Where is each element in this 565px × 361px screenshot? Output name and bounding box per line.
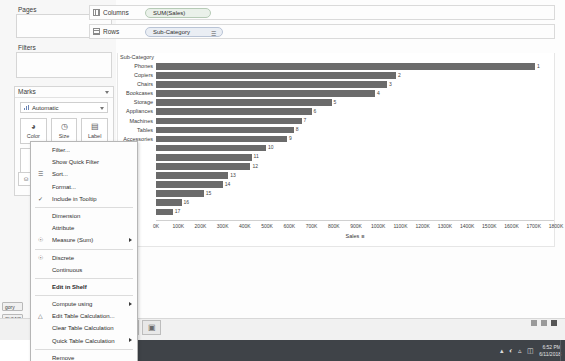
bar-value-label: 12 [250,163,258,169]
bar[interactable] [156,181,223,188]
chevron-down-icon[interactable] [105,91,109,94]
menu-item-clear-table-calculation[interactable]: Clear Table Calculation [31,322,137,334]
bar[interactable] [156,145,266,152]
marks-label: Marks [18,88,36,95]
menu-item-measure-sum[interactable]: ☉Measure (Sum) [31,234,137,246]
marks-card-header[interactable]: Marks [15,87,113,98]
view-normal-icon[interactable] [531,320,537,326]
bar-row[interactable]: 4 [156,89,554,98]
bar-row[interactable]: 17 [156,208,554,217]
menu-item-label: Discrete [52,255,74,261]
bar-row[interactable]: 6 [156,107,554,116]
view-full-icon[interactable] [551,320,557,326]
bar-row[interactable]: 1 [156,62,554,71]
context-menu[interactable]: Filter...Show Quick Filter☰Sort...Format… [30,141,138,361]
bar-row[interactable]: 3 [156,80,554,89]
columns-icon [93,9,100,16]
x-axis[interactable]: Sales≡ 0K100K200K300K400K500K600K700K800… [156,220,554,247]
bar[interactable] [156,90,375,97]
row-axis-label[interactable]: Chairs [118,80,156,89]
bar-row[interactable]: 15 [156,189,554,198]
bar-row[interactable]: 7 [156,117,554,126]
view-fit-icon[interactable] [541,320,547,326]
bar-value-label: 14 [223,181,231,187]
bar-row[interactable]: 11 [156,153,554,162]
bar-row[interactable]: 12 [156,162,554,171]
bar-row[interactable]: 10 [156,144,554,153]
row-axis-label[interactable]: Storage [118,98,156,107]
menu-item-filter[interactable]: Filter... [31,144,137,156]
menu-item-discrete[interactable]: ☉Discrete [31,252,137,264]
mark-type-dropdown[interactable]: Automatic [20,102,108,113]
row-axis-label[interactable]: Phones [118,62,156,71]
bar-row[interactable]: 2 [156,71,554,80]
bar[interactable] [156,81,387,88]
sub-category-pill-text: Sub-Category [153,29,190,35]
x-axis-tick-label: 700K [306,223,318,229]
bar[interactable] [156,99,332,106]
bar-row[interactable]: 8 [156,126,554,135]
bar[interactable] [156,63,535,70]
menu-item-attribute[interactable]: Attribute [31,222,137,234]
delta-icon: △ [38,310,43,322]
row-axis-label[interactable]: Bookcases [118,89,156,98]
bar-row[interactable]: 14 [156,180,554,189]
filters-shelf[interactable] [16,52,112,78]
bar[interactable] [156,172,228,179]
menu-item-include-in-tooltip[interactable]: ✓Include in Tooltip [31,193,137,205]
sub-category-pill-bottom[interactable]: gory [2,302,23,311]
network-icon[interactable]: ◐ [509,347,513,354]
bar[interactable] [156,72,396,79]
columns-shelf[interactable]: Columns SUM(Sales) [89,5,555,20]
bar-row[interactable]: 5 [156,98,554,107]
visualization-pane[interactable]: Sub-Category PhonesCopiersChairsBookcase… [117,53,555,247]
sum-sales-pill[interactable]: SUM(Sales) [145,8,211,18]
row-axis-label[interactable]: Machines [118,117,156,126]
row-axis-title: Sub-Category [118,54,156,60]
bar[interactable] [156,190,204,197]
bar[interactable] [156,199,182,206]
chevron-up-icon[interactable]: ▴ [500,347,504,355]
row-axis-label[interactable]: Copiers [118,71,156,80]
bar-row[interactable]: 16 [156,198,554,207]
bar[interactable] [156,154,252,161]
bar[interactable] [156,136,287,143]
menu-item-edit-table-calculation[interactable]: △Edit Table Calculation... [31,310,137,322]
menu-item-dimension[interactable]: Dimension [31,210,137,222]
menu-item-sort[interactable]: ☰Sort... [31,168,137,180]
radio-icon: ☉ [38,234,43,246]
menu-item-show-quick-filter[interactable]: Show Quick Filter [31,156,137,168]
sort-icon[interactable]: ☰ [211,30,216,37]
battery-icon[interactable]: ◫ [527,347,534,355]
new-dashboard-tab[interactable]: ▣ [142,320,161,335]
bar[interactable] [156,108,312,115]
bar-row[interactable]: 9 [156,135,554,144]
menu-item-quick-table-calculation[interactable]: Quick Table Calculation [31,335,137,347]
x-axis-tick-label: 500K [261,223,273,229]
sound-icon[interactable]: ▵ [518,347,522,355]
menu-item-edit-in-shelf[interactable]: Edit in Shelf [31,281,137,293]
bar-row[interactable]: 13 [156,171,554,180]
menu-item-compute-using[interactable]: Compute using [31,298,137,310]
clock[interactable]: 6:52 PM 6/11/2018 [539,344,561,357]
sub-category-pill[interactable]: Sub-Category ☰ [145,27,223,37]
menu-item-continuous[interactable]: Continuous [31,264,137,276]
row-axis-label[interactable]: Appliances [118,107,156,116]
bar[interactable] [156,127,294,134]
bar[interactable] [156,118,302,125]
x-axis-tick-label: 100K [172,223,184,229]
bar[interactable] [156,163,250,170]
chevron-down-icon[interactable] [100,107,104,110]
rows-shelf[interactable]: Rows Sub-Category ☰ [89,24,555,39]
row-axis-label[interactable]: Tables [118,126,156,135]
bar[interactable] [156,209,173,216]
menu-separator [35,207,133,208]
menu-item-remove[interactable]: Remove [31,352,137,361]
show-desktop-button[interactable] [560,340,565,361]
bar-plot-area[interactable]: 1234567891011121314151617 [156,62,554,218]
bar-value-label: 3 [387,81,392,87]
menu-item-format[interactable]: Format... [31,181,137,193]
sort-icon[interactable]: ≡ [361,233,364,239]
menu-item-label: Remove [52,355,74,361]
bar-value-label: 11 [252,153,259,159]
